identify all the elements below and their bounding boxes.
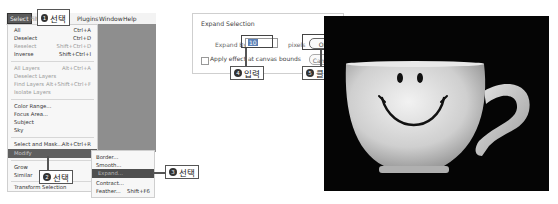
menu-item-isolate-layers: Isolate Layers (12, 88, 93, 96)
menu-item-label: Smooth... (96, 161, 122, 169)
callout-leader-line (320, 50, 322, 66)
menu-item-label: Color Range... (14, 102, 51, 110)
menu-item-label: Subject (14, 118, 34, 126)
menu-item-label: Expand... (98, 169, 123, 178)
menu-item-label: Inverse (14, 50, 34, 58)
callout-leader-line (47, 156, 49, 171)
callout-step-4: 4입력 (230, 66, 264, 80)
menu-item-label: Transform Selection (14, 183, 66, 191)
callout-step-3: 3선택 (165, 165, 199, 179)
apply-canvas-bounds-checkbox[interactable] (201, 57, 209, 65)
callout-text: 선택 (53, 171, 69, 183)
menu-item-select-and-mask[interactable]: Select and Mask...Alt+Ctrl+R (12, 140, 93, 148)
menu-item-shortcut: Shift+Ctrl+I (59, 50, 91, 58)
input-highlight-box (241, 35, 273, 48)
menu-item-color-range[interactable]: Color Range... (12, 102, 93, 110)
dialog-title: Expand Selection (201, 20, 255, 27)
menu-item-inverse[interactable]: InverseShift+Ctrl+I (12, 50, 93, 58)
menu-item-modify[interactable]: Modify▸ (8, 149, 97, 158)
menu-separator (11, 99, 94, 100)
menu-item-label: Grow (14, 163, 28, 171)
smiley-cup-image (324, 16, 549, 191)
submenu-item-contract[interactable]: Contract... (94, 179, 152, 187)
checkbox-label: Apply effect at canvas bounds (210, 55, 301, 62)
menu-item-transform-selection[interactable]: Transform Selection (12, 183, 93, 191)
callout-text: 선택 (50, 12, 66, 24)
step-number-badge: 4 (234, 69, 242, 77)
menu-item-label: Contract... (96, 179, 124, 187)
select-menu: AllCtrl+A DeselectCtrl+D ReselectShift+C… (7, 24, 98, 192)
menu-item-label: Sky (14, 126, 23, 134)
menu-help[interactable]: Help (123, 15, 137, 22)
menu-separator (11, 160, 94, 161)
menu-item-label: Similar (14, 171, 32, 179)
menu-plugins[interactable]: Plugins (77, 15, 99, 22)
modify-submenu: Border... Smooth... Expand... Contract..… (91, 150, 155, 198)
menu-item-label: Find Layers (14, 80, 44, 88)
menu-item-label: Feather... (96, 187, 121, 195)
menu-item-all[interactable]: AllCtrl+A (12, 26, 93, 34)
callout-step-2: 2선택 (39, 170, 73, 184)
menu-item-shortcut: Alt+Ctrl+R (62, 140, 91, 148)
step-number-badge: 5 (306, 69, 314, 77)
menu-window[interactable]: Window (99, 15, 123, 22)
menu-item-label: Border... (96, 153, 118, 161)
callout-text: 선택 (179, 166, 195, 178)
menu-item-label: Reselect (14, 42, 36, 50)
menu-item-label: Isolate Layers (14, 88, 51, 96)
callout-step-1: 1선택 (37, 9, 70, 26)
menu-item-label: All (14, 26, 21, 34)
menu-item-label: Select and Mask... (14, 140, 62, 148)
menu-item-sky[interactable]: Sky (12, 126, 93, 134)
step-number-badge: 1 (41, 14, 48, 22)
menu-item-shortcut: Alt+Shift+Ctrl+F (46, 80, 91, 88)
menu-item-focus-area[interactable]: Focus Area... (12, 110, 93, 118)
menu-item-label: All Layers (14, 64, 40, 72)
menu-item-label: Modify (14, 149, 32, 158)
menu-select[interactable]: Select (7, 13, 32, 24)
menu-separator (11, 61, 94, 62)
menu-item-shortcut: Ctrl+D (73, 34, 91, 42)
menu-item-all-layers: All LayersAlt+Ctrl+A (12, 64, 93, 72)
menu-item-label: Deselect Layers (14, 72, 56, 80)
menu-item-label: Deselect (14, 34, 37, 42)
submenu-item-smooth[interactable]: Smooth... (94, 161, 152, 169)
step-number-badge: 3 (169, 168, 177, 176)
callout-text: 입력 (244, 67, 260, 79)
menu-item-find-layers: Find LayersAlt+Shift+Ctrl+F (12, 80, 93, 88)
menu-item-shortcut: Shift+F6 (127, 187, 150, 195)
callout-leader-line (245, 48, 247, 66)
menu-item-deselect[interactable]: DeselectCtrl+D (12, 34, 93, 42)
menu-item-reselect: ReselectShift+Ctrl+D (12, 42, 93, 50)
result-photo-smiley-cup (324, 16, 549, 191)
menu-item-shortcut: Shift+Ctrl+D (57, 42, 91, 50)
submenu-item-feather[interactable]: Feather...Shift+F6 (94, 187, 152, 195)
menu-item-label: Focus Area... (14, 110, 48, 118)
submenu-item-border[interactable]: Border... (94, 153, 152, 161)
canvas-area (96, 24, 156, 152)
menu-item-subject[interactable]: Subject (12, 118, 93, 126)
menu-item-shortcut: Alt+Ctrl+A (62, 64, 91, 72)
menu-separator (11, 137, 94, 138)
submenu-item-expand[interactable]: Expand... (92, 169, 154, 178)
menu-item-deselect-layers: Deselect Layers (12, 72, 93, 80)
step-number-badge: 2 (43, 173, 51, 181)
menu-item-shortcut: Ctrl+A (74, 26, 92, 34)
